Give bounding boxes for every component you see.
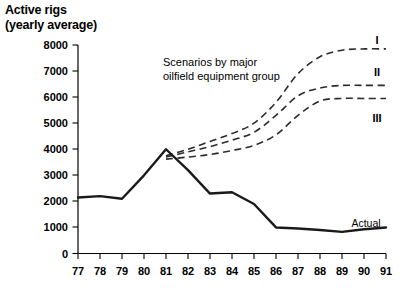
x-tick-label: 87 bbox=[292, 265, 304, 277]
x-tick-label: 77 bbox=[72, 265, 84, 277]
y-axis-ticks bbox=[73, 45, 79, 254]
x-axis-ticks bbox=[78, 254, 386, 260]
scenario-line-3 bbox=[166, 98, 386, 159]
chart-annotations: Scenarios by major oilfield equipment gr… bbox=[163, 34, 382, 229]
x-tick-label: 81 bbox=[160, 265, 172, 277]
x-tick-label: 84 bbox=[226, 265, 239, 277]
y-tick-label: 2000 bbox=[44, 195, 68, 207]
y-axis: 8000 7000 6000 5000 4000 3000 2000 1000 … bbox=[44, 39, 78, 260]
actual-series-label: Actual bbox=[351, 217, 380, 229]
x-tick-label: 88 bbox=[314, 265, 326, 277]
y-tick-label: 1000 bbox=[44, 221, 68, 233]
y-tick-label: 7000 bbox=[44, 65, 68, 77]
chart-container: Active rigs (yearly average) 8000 7000 6… bbox=[0, 0, 406, 294]
x-tick-label: 90 bbox=[358, 265, 370, 277]
scenario-line-2 bbox=[166, 85, 386, 157]
annotation-line-1: Scenarios by major bbox=[163, 56, 257, 68]
x-tick-label: 80 bbox=[138, 265, 150, 277]
y-tick-label: 8000 bbox=[44, 39, 68, 51]
y-tick-label: 3000 bbox=[44, 169, 68, 181]
x-axis: 77 78 79 80 81 82 83 84 85 86 87 88 89 9… bbox=[72, 254, 392, 278]
x-tick-label: 86 bbox=[270, 265, 282, 277]
x-axis-tick-labels: 77 78 79 80 81 82 83 84 85 86 87 88 89 9… bbox=[72, 265, 392, 277]
y-tick-label: 5000 bbox=[44, 117, 68, 129]
y-tick-label: 4000 bbox=[44, 143, 68, 155]
x-tick-label: 79 bbox=[116, 265, 128, 277]
x-tick-label: 91 bbox=[380, 265, 392, 277]
series-label-1: I bbox=[375, 34, 378, 46]
annotation-line-2: oilfield equipment group bbox=[163, 70, 280, 82]
y-tick-label: 6000 bbox=[44, 91, 68, 103]
x-tick-label: 82 bbox=[182, 265, 194, 277]
x-tick-label: 83 bbox=[204, 265, 216, 277]
y-axis-tick-labels: 8000 7000 6000 5000 4000 3000 2000 1000 … bbox=[44, 39, 68, 260]
series-label-3: III bbox=[372, 112, 381, 124]
x-tick-label: 89 bbox=[336, 265, 348, 277]
y-tick-label: 0 bbox=[62, 248, 68, 260]
x-tick-label: 78 bbox=[94, 265, 106, 277]
line-chart-plot: 8000 7000 6000 5000 4000 3000 2000 1000 … bbox=[0, 0, 406, 294]
actual-line bbox=[78, 149, 386, 232]
x-tick-label: 85 bbox=[248, 265, 260, 277]
series-label-2: II bbox=[374, 66, 380, 78]
